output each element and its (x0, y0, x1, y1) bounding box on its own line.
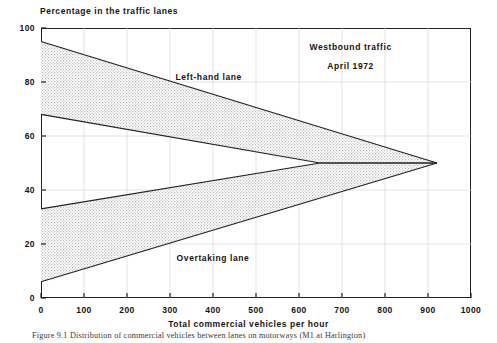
x-tick-label: 700 (325, 305, 359, 315)
figure-caption: Figure 9.1 Distribution of commercial ve… (32, 331, 492, 340)
x-axis-label: Total commercial vehicles per hour (0, 319, 497, 329)
x-tick-label: 400 (196, 305, 230, 315)
x-tick-label: 500 (239, 305, 273, 315)
y-tick-label: 40 (5, 185, 35, 195)
plot-area (41, 28, 471, 298)
x-tick-label: 800 (368, 305, 402, 315)
y-tick-label: 80 (5, 77, 35, 87)
annotation-overtaking-lane: Overtaking lane (177, 253, 250, 263)
x-tick-label: 600 (282, 305, 316, 315)
y-tick-label: 100 (5, 23, 35, 33)
y-axis-label: Percentage in the traffic lanes (40, 6, 178, 16)
x-tick-label: 200 (110, 305, 144, 315)
y-tick-label: 60 (5, 131, 35, 141)
figure-traffic-lane-distribution: Percentage in the traffic lanes 02040608… (0, 0, 497, 343)
x-tick-label: 100 (67, 305, 101, 315)
x-tick-label: 0 (24, 305, 58, 315)
annotation-westbound-traffic: Westbound traffic (309, 42, 391, 52)
x-tick-label: 300 (153, 305, 187, 315)
annotation-april-1972: April 1972 (327, 61, 374, 71)
annotation-left-hand-lane: Left-hand lane (175, 72, 242, 82)
y-tick-label: 20 (5, 239, 35, 249)
x-tick-label: 900 (411, 305, 445, 315)
y-tick-label: 0 (5, 293, 35, 303)
x-tick-label: 1000 (454, 305, 488, 315)
